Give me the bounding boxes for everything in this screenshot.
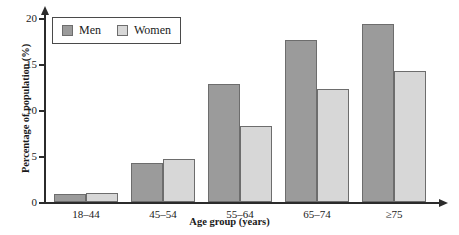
- bar-group: [362, 8, 426, 204]
- y-axis-tick-label: 20: [26, 12, 37, 24]
- bar-chart: Percentage of population (%) 05101520 18…: [0, 0, 459, 235]
- bar-men-4: [362, 24, 394, 202]
- y-axis-tick-label: 5: [32, 150, 38, 162]
- bar-men-0: [54, 194, 86, 202]
- y-axis-line: [44, 11, 46, 204]
- legend-label: Men: [79, 23, 101, 38]
- bar-women-1: [163, 159, 195, 202]
- y-axis-tick-label: 0: [32, 196, 38, 208]
- y-axis-arrow-icon: [41, 6, 49, 15]
- legend-entry-men: Men: [62, 23, 101, 38]
- y-axis-tick-mark: [39, 64, 44, 66]
- legend-entry-women: Women: [117, 23, 171, 38]
- y-axis-tick-mark: [39, 18, 44, 20]
- bar-group: [285, 8, 349, 204]
- y-axis-tick-mark: [39, 202, 44, 204]
- x-axis-title: Age group (years): [0, 216, 459, 227]
- bar-women-0: [86, 193, 118, 202]
- y-axis-tick-label: 10: [26, 104, 37, 116]
- chart-legend: MenWomen: [52, 17, 181, 44]
- bar-women-3: [317, 89, 349, 202]
- bar-women-2: [240, 126, 272, 202]
- y-axis-tick-label: 15: [26, 58, 37, 70]
- y-axis-tick-mark: [39, 156, 44, 158]
- bar-women-4: [394, 71, 426, 202]
- y-axis-tick-mark: [39, 110, 44, 112]
- bar-group: [208, 8, 272, 204]
- bar-men-3: [285, 40, 317, 202]
- bar-men-2: [208, 84, 240, 202]
- x-axis-arrow-icon: [439, 199, 448, 207]
- legend-swatch-icon: [117, 25, 128, 36]
- bar-men-1: [131, 163, 163, 202]
- legend-label: Women: [134, 23, 171, 38]
- legend-swatch-icon: [62, 25, 73, 36]
